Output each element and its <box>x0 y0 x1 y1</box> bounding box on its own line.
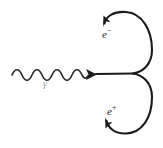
feynman-diagram-svg <box>0 0 163 148</box>
electron-label: e− <box>102 27 111 40</box>
electron-label-charge: − <box>107 26 112 35</box>
photon-label: γ <box>43 79 47 89</box>
positron-label-charge: + <box>112 103 117 112</box>
vertex-stem-line <box>96 74 133 75</box>
photon-wavy-line <box>12 70 88 81</box>
feynman-diagram-canvas: e− e+ γ <box>0 0 163 148</box>
electron-arc-line <box>105 12 153 74</box>
positron-label: e+ <box>107 104 116 117</box>
